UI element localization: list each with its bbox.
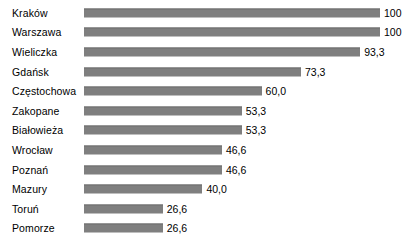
bar-row: Wieliczka93,3 [0,42,413,62]
bar-row: Pomorze26,6 [0,219,413,239]
bar-row: Gdańsk73,3 [0,62,413,82]
category-label: Zakopane [12,106,60,117]
value-label: 53,3 [242,106,266,117]
bar [84,126,242,135]
category-label: Pomorze [12,223,55,234]
bar [84,165,222,174]
value-label: 73,3 [301,66,325,77]
category-label: Częstochowa [12,86,76,97]
bar [84,47,360,56]
value-label: 100 [380,27,402,38]
bar-chart: Kraków100Warszawa100Wieliczka93,3Gdańsk7… [0,0,413,246]
bar-track [84,224,380,233]
bar [84,67,301,76]
bar [84,145,222,154]
bar [84,185,202,194]
plot-area: Kraków100Warszawa100Wieliczka93,3Gdańsk7… [0,0,413,246]
bar-row: Mazury40,0 [0,179,413,199]
bar-track [84,47,380,56]
value-label: 53,3 [242,125,266,136]
bar [84,224,163,233]
bar-row: Poznań46,6 [0,160,413,180]
value-label: 26,6 [163,223,187,234]
bar-row: Wrocław46,6 [0,140,413,160]
bar-track [84,204,380,213]
category-label: Kraków [12,8,48,19]
bar-track [84,126,380,135]
bar-row: Częstochowa60,0 [0,81,413,101]
category-label: Toruń [12,204,39,215]
bar-track [84,106,380,115]
bar-track [84,8,380,17]
value-label: 46,6 [222,164,246,175]
category-label: Warszawa [12,27,61,38]
bar-track [84,87,380,96]
bar-row: Zakopane53,3 [0,101,413,121]
value-label: 40,0 [202,184,226,195]
bar [84,87,262,96]
bar-track [84,28,380,37]
bar [84,28,380,37]
bar-row: Białowieża53,3 [0,121,413,141]
bar-row: Warszawa100 [0,23,413,43]
bar-row: Kraków100 [0,3,413,23]
value-label: 100 [380,8,402,19]
value-label: 26,6 [163,204,187,215]
category-label: Wieliczka [12,47,57,58]
category-label: Poznań [12,164,48,175]
category-label: Wrocław [12,145,53,156]
bar-row: Toruń26,6 [0,199,413,219]
bar [84,204,163,213]
value-label: 60,0 [262,86,286,97]
category-label: Gdańsk [12,66,49,77]
bar-track [84,185,380,194]
bar-track [84,67,380,76]
bar [84,106,242,115]
bar [84,8,380,17]
value-label: 93,3 [360,47,384,58]
value-label: 46,6 [222,145,246,156]
category-label: Białowieża [12,125,63,136]
category-label: Mazury [12,184,47,195]
